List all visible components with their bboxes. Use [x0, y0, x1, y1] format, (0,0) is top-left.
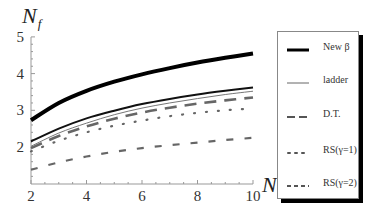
legend-label: D.T.: [323, 108, 341, 119]
y-tick-label: 3: [17, 102, 25, 118]
series-line: [31, 108, 253, 151]
series-lines: [31, 53, 253, 169]
x-tick-label: 8: [194, 188, 202, 204]
tick-labels: 2468102345: [17, 29, 261, 204]
y-tick-label: 4: [17, 66, 25, 82]
x-tick-label: 6: [138, 188, 146, 204]
y-tick-label: 5: [17, 29, 25, 45]
x-tick-label: 2: [27, 188, 35, 204]
x-tick-label: 4: [83, 188, 91, 204]
series-line: [31, 138, 253, 170]
legend-label: New β: [323, 41, 349, 52]
legend-item-new-beta: New β: [278, 36, 358, 56]
legend-swatch-thick-solid: [287, 41, 309, 51]
x-tick-label: 10: [246, 188, 261, 204]
legend-label: RS(γ=1): [323, 144, 357, 155]
legend-item-rs-gamma-1: RS(γ=1): [278, 139, 358, 159]
y-tick-label: 2: [17, 139, 25, 155]
legend-label: ladder: [323, 74, 348, 85]
legend-swatch-dotted: [287, 144, 309, 154]
legend-item-ladder: ladder: [278, 69, 358, 89]
legend-swatch-thin-solid: [287, 74, 309, 84]
legend-item-rs-gamma-2: RS(γ=2): [278, 172, 358, 192]
y-axis-title: Nf: [21, 3, 44, 31]
legend-label: RS(γ=2): [323, 177, 357, 188]
legend-swatch-long-dash: [287, 108, 309, 118]
legend: New β ladder D.T. RS(γ=1) RS(γ=2): [277, 31, 359, 199]
legend-swatch-short-dash: [287, 177, 309, 187]
legend-item-dt: D.T.: [278, 103, 358, 123]
